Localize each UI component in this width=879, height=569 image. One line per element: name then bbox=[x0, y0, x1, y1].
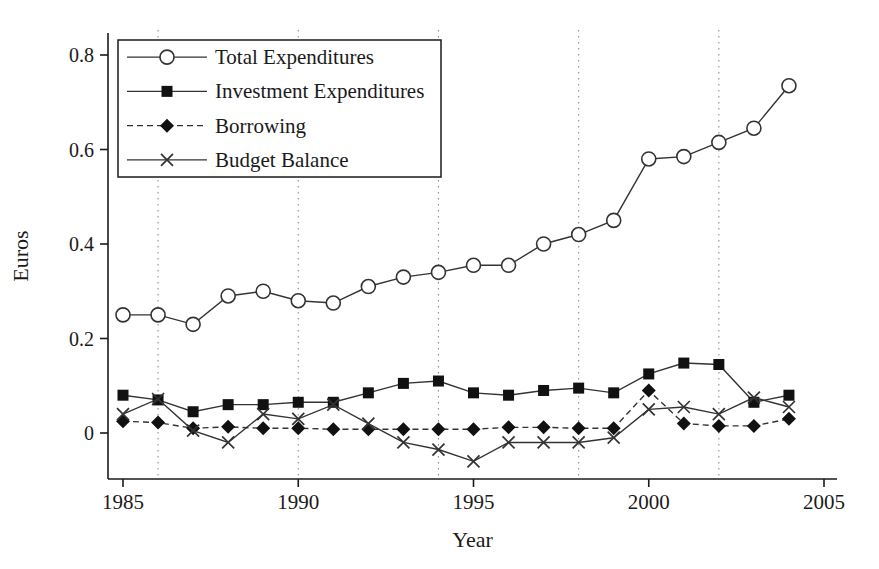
square-marker-icon bbox=[188, 406, 199, 417]
y-axis-tick-label: 0.6 bbox=[69, 139, 94, 161]
circle-marker-icon bbox=[160, 50, 174, 64]
circle-marker-icon bbox=[642, 152, 656, 166]
square-marker-icon bbox=[713, 359, 724, 370]
circle-marker-icon bbox=[361, 280, 375, 294]
square-marker-icon bbox=[573, 383, 584, 394]
circle-marker-icon bbox=[467, 258, 481, 272]
y-axis-tick-label: 0 bbox=[84, 422, 94, 444]
circle-marker-icon bbox=[396, 270, 410, 284]
circle-marker-icon bbox=[256, 284, 270, 298]
line-chart-canvas: 00.20.40.60.819851990199520002005EurosYe… bbox=[0, 0, 879, 569]
square-marker-icon bbox=[293, 397, 304, 408]
x-axis-tick-label: 2005 bbox=[803, 490, 845, 514]
circle-marker-icon bbox=[431, 265, 445, 279]
circle-marker-icon bbox=[537, 237, 551, 251]
square-marker-icon bbox=[223, 399, 234, 410]
x-axis-tick-label: 1985 bbox=[102, 490, 144, 514]
square-marker-icon bbox=[678, 358, 689, 369]
chart-figure: 00.20.40.60.819851990199520002005EurosYe… bbox=[0, 0, 879, 569]
circle-marker-icon bbox=[186, 317, 200, 331]
square-marker-icon bbox=[468, 387, 479, 398]
x-axis-tick-label: 1995 bbox=[453, 490, 495, 514]
legend-label: Total Expenditures bbox=[215, 45, 374, 69]
legend: Total ExpendituresInvestment Expenditure… bbox=[118, 40, 441, 177]
circle-marker-icon bbox=[677, 150, 691, 164]
circle-marker-icon bbox=[502, 258, 516, 272]
x-axis-title: Year bbox=[452, 527, 493, 552]
circle-marker-icon bbox=[782, 79, 796, 93]
y-axis-title: Euros bbox=[8, 230, 33, 281]
x-axis-tick-label: 1990 bbox=[277, 490, 319, 514]
square-marker-icon bbox=[643, 368, 654, 379]
y-axis-tick-label: 0.8 bbox=[69, 44, 94, 66]
square-marker-icon bbox=[363, 387, 374, 398]
circle-marker-icon bbox=[712, 135, 726, 149]
x-axis-tick-label: 2000 bbox=[628, 490, 670, 514]
circle-marker-icon bbox=[291, 294, 305, 308]
square-marker-icon bbox=[783, 390, 794, 401]
square-marker-icon bbox=[538, 385, 549, 396]
square-marker-icon bbox=[503, 390, 514, 401]
square-marker-icon bbox=[398, 378, 409, 389]
circle-marker-icon bbox=[326, 296, 340, 310]
legend-label: Borrowing bbox=[215, 114, 306, 138]
y-axis-tick-label: 0.4 bbox=[69, 233, 94, 255]
circle-marker-icon bbox=[572, 228, 586, 242]
circle-marker-icon bbox=[747, 121, 761, 135]
square-marker-icon bbox=[162, 86, 173, 97]
circle-marker-icon bbox=[607, 213, 621, 227]
circle-marker-icon bbox=[151, 308, 165, 322]
circle-marker-icon bbox=[221, 289, 235, 303]
square-marker-icon bbox=[258, 399, 269, 410]
square-marker-icon bbox=[433, 376, 444, 387]
legend-label: Budget Balance bbox=[215, 148, 349, 172]
square-marker-icon bbox=[118, 390, 129, 401]
square-marker-icon bbox=[608, 387, 619, 398]
circle-marker-icon bbox=[116, 308, 130, 322]
legend-label: Investment Expenditures bbox=[215, 79, 424, 103]
y-axis-tick-label: 0.2 bbox=[69, 328, 94, 350]
